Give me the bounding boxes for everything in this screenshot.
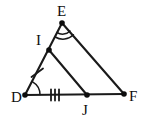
vertex-dot-e [59, 20, 65, 26]
vertex-dot-f [121, 91, 127, 97]
vertex-label-j: J [82, 102, 88, 118]
geometry-figure: E I D J F [0, 0, 143, 127]
angle-mark-d [33, 82, 40, 95]
vertex-label-e: E [57, 3, 66, 19]
angle-arc-d [33, 82, 40, 95]
vertex-dot-j [84, 92, 90, 98]
vertex-label-i: I [36, 32, 41, 48]
segment-ef [62, 23, 124, 94]
angle-arc-e-outer [55, 35, 73, 39]
vertex-dot-i [46, 47, 52, 53]
vertex-label-d: D [11, 89, 22, 105]
vertex-dot-d [22, 92, 28, 98]
segment-ij [49, 50, 87, 95]
vertex-label-f: F [129, 88, 137, 104]
geometry-diagram-canvas: E I D J F [0, 0, 143, 127]
vertex-label-group: E I D J F [11, 3, 137, 118]
